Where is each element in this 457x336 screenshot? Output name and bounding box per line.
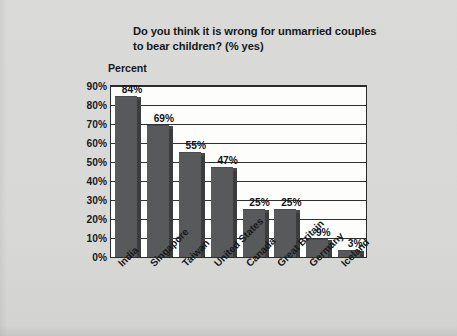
y-axis-tick-label: 30%: [87, 195, 107, 206]
bar-group: 3%: [338, 86, 370, 257]
chart-title-line-1: Do you think it is wrong for unmarried c…: [133, 25, 376, 37]
y-axis-tick-label: 70%: [87, 119, 107, 130]
bar-series: 84%69%55%47%25%25%9%3%: [111, 86, 366, 257]
chart-title: Do you think it is wrong for unmarried c…: [133, 24, 423, 53]
bar[interactable]: [147, 125, 169, 257]
y-axis-label: Percent: [108, 62, 147, 74]
bar-top-face: [169, 126, 173, 129]
bar-top-face: [233, 168, 237, 171]
x-axis-labels: IndiaSingaporeTaiwanUnited StatesCanadaG…: [110, 258, 367, 336]
y-axis-tick-label: 40%: [87, 176, 107, 187]
y-axis-tick-label: 10%: [87, 233, 107, 244]
bar-top-face: [265, 210, 269, 213]
y-axis-tick-label: 60%: [87, 138, 107, 149]
bar-top-face: [296, 210, 300, 213]
bar-group: 84%: [115, 86, 147, 257]
plot-area: 0%10%20%30%40%50%60%70%80%90% 84%69%55%4…: [110, 85, 367, 258]
y-axis-tick-label: 50%: [87, 157, 107, 168]
chart-title-line-2: to bear children? (% yes): [133, 39, 423, 54]
y-axis-tick-label: 20%: [87, 214, 107, 225]
bar-group: 47%: [211, 86, 243, 257]
y-axis-tick-label: 80%: [87, 100, 107, 111]
bar[interactable]: [115, 96, 137, 257]
bar-group: 69%: [147, 86, 179, 257]
bar-side-face: [137, 100, 141, 257]
chart-page: Do you think it is wrong for unmarried c…: [0, 0, 457, 336]
y-axis-tick-label: 0%: [92, 252, 107, 263]
bar-top-face: [201, 153, 205, 156]
bar-top-face: [137, 97, 141, 100]
y-axis-tick-label: 90%: [87, 81, 107, 92]
